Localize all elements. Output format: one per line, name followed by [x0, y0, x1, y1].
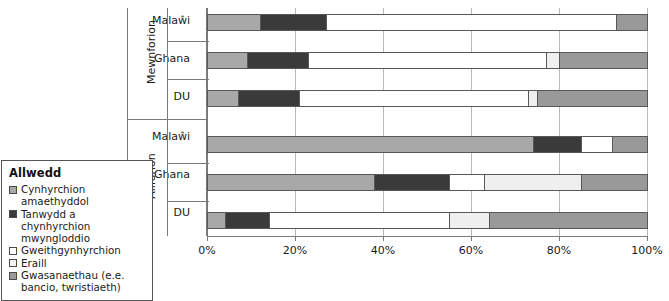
legend-label-fuels-mining: Tanwydd a chynhyrchion mwyngloddio [21, 208, 146, 245]
legend-item-other: Eraill [9, 257, 146, 269]
x-tickmark-20 [295, 237, 296, 241]
category-separator-inner [167, 163, 207, 164]
bar-segment-fuels-mining [247, 52, 310, 69]
table-row [207, 174, 647, 191]
bar-segment-fuels-mining [238, 90, 301, 107]
legend-item-fuels-mining: Tanwydd a chynhyrchion mwyngloddio [9, 208, 146, 245]
table-row [207, 212, 647, 229]
bar-segment-services [559, 52, 648, 69]
legend-item-agricultural: Cynhyrchion amaethyddol [9, 183, 146, 208]
cat-label-imports-ghana: Ghana [108, 52, 190, 65]
bar-segment-fuels-mining [374, 174, 450, 191]
x-axis-line [207, 236, 648, 237]
x-tick-label-0: 0% [177, 244, 237, 257]
bar-segment-manufactures [308, 52, 547, 69]
bar-segment-fuels-mining [225, 212, 270, 229]
x-tickmark-40 [383, 237, 384, 241]
cat-label-imports-du: DU [108, 90, 190, 103]
bar-segment-manufactures [269, 212, 450, 229]
bar-segment-services [489, 212, 648, 229]
category-separator-inner [167, 41, 207, 42]
bar-segment-agricultural [207, 52, 248, 69]
table-row [207, 14, 647, 31]
x-tickmark-60 [471, 237, 472, 241]
legend-label-agricultural: Cynhyrchion amaethyddol [21, 183, 146, 208]
legend-label-other: Eraill [21, 257, 47, 269]
gridline-100 [647, 8, 648, 236]
cat-label-imports-malawi: Malaŵi [108, 14, 190, 27]
legend-label-manufactures: Gweithgynhyrchion [21, 244, 121, 256]
legend-title: Allwedd [9, 166, 146, 180]
y-group-axis-line [167, 8, 168, 236]
category-separator-inner [167, 201, 207, 202]
bar-segment-manufactures [326, 14, 617, 31]
legend-item-manufactures: Gweithgynhyrchion [9, 244, 146, 256]
chart-legend: Allwedd Cynhyrchion amaethyddol Tanwydd … [1, 160, 153, 301]
bar-segment-services [581, 174, 648, 191]
bar-segment-manufactures [581, 136, 613, 153]
bar-segment-services [537, 90, 648, 107]
gridline-0 [207, 8, 208, 236]
legend-swatch-agricultural [9, 186, 17, 194]
x-tick-label-40: 40% [353, 244, 413, 257]
x-tick-label-20: 20% [265, 244, 325, 257]
bar-segment-services [612, 136, 648, 153]
gridline-80 [559, 8, 560, 236]
x-tick-label-60: 60% [441, 244, 501, 257]
cat-label-exports-malawi: Malaŵi [108, 130, 190, 143]
legend-swatch-fuels-mining [9, 210, 17, 218]
group-separator [127, 119, 207, 120]
bar-segment-other [546, 52, 560, 69]
bar-segment-agricultural [207, 174, 375, 191]
legend-swatch-manufactures [9, 247, 17, 255]
bar-segment-manufactures [449, 174, 485, 191]
bar-segment-other [449, 212, 490, 229]
table-row [207, 136, 647, 153]
bar-segment-fuels-mining [260, 14, 327, 31]
gridline-20 [295, 8, 296, 236]
x-tickmark-100 [647, 237, 648, 241]
x-tick-label-100: 100% [617, 244, 669, 257]
gridline-60 [471, 8, 472, 236]
bar-segment-agricultural [207, 14, 261, 31]
legend-swatch-services [9, 272, 17, 280]
category-separator-inner [167, 79, 207, 80]
x-tickmark-0 [207, 237, 208, 241]
bar-segment-agricultural [207, 212, 226, 229]
table-row [207, 52, 647, 69]
legend-swatch-other [9, 259, 17, 267]
bar-segment-fuels-mining [533, 136, 582, 153]
table-row [207, 90, 647, 107]
bar-segment-agricultural [207, 136, 534, 153]
bar-segment-agricultural [207, 90, 239, 107]
x-tickmark-80 [559, 237, 560, 241]
gridline-40 [383, 8, 384, 236]
bar-segment-other [484, 174, 582, 191]
bar-segment-services [616, 14, 648, 31]
legend-item-services: Gwasanaethau (e.e. bancio, twristiaeth) [9, 269, 146, 294]
legend-label-services: Gwasanaethau (e.e. bancio, twristiaeth) [21, 269, 146, 294]
x-tick-label-80: 80% [529, 244, 589, 257]
bar-segment-manufactures [299, 90, 529, 107]
